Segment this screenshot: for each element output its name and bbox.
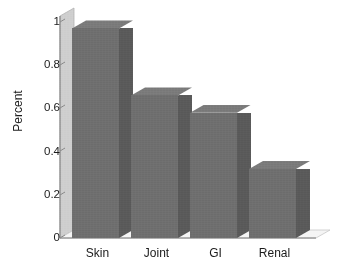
bar-front-face bbox=[190, 113, 237, 238]
y-tick-0-6: 0.6 bbox=[44, 102, 60, 114]
y-tick-0-4: 0.4 bbox=[44, 146, 60, 158]
bar-top-face bbox=[72, 20, 133, 28]
y-axis-label: Percent bbox=[11, 71, 25, 151]
bar-joint bbox=[131, 87, 192, 238]
bar-top-face bbox=[190, 105, 251, 113]
x-tick-joint: Joint bbox=[144, 246, 169, 260]
bar-top-face bbox=[131, 87, 192, 95]
x-tick-skin: Skin bbox=[86, 246, 109, 260]
x-tick-renal: Renal bbox=[259, 246, 290, 260]
bar-gi bbox=[190, 105, 251, 238]
bar-front-face bbox=[131, 95, 178, 238]
bar-skin bbox=[72, 20, 133, 238]
bar-front-face bbox=[249, 169, 296, 238]
bar-top-face bbox=[249, 161, 310, 169]
bar-front-face bbox=[72, 28, 119, 238]
y-tick-0: 0 bbox=[54, 232, 60, 244]
x-tick-gi: GI bbox=[209, 246, 222, 260]
bar-side-face bbox=[296, 169, 310, 238]
bar-chart: 00.20.40.60.81 Percent SkinJointGIRenal bbox=[0, 0, 346, 272]
y-tick-0-2: 0.2 bbox=[44, 189, 60, 201]
y-tick-1: 1 bbox=[54, 16, 60, 28]
bar-renal bbox=[249, 161, 310, 238]
y-tick-marks bbox=[60, 19, 65, 238]
y-tick-0-8: 0.8 bbox=[44, 59, 60, 71]
